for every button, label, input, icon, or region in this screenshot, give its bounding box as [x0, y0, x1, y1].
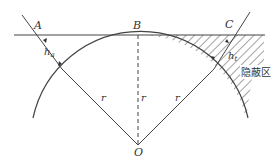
label-o: O: [134, 146, 143, 159]
label-b: B: [132, 19, 141, 32]
line-a: [22, 15, 62, 69]
label-r-left: r: [101, 92, 107, 103]
label-a: A: [33, 19, 42, 32]
label-h-a: ha: [44, 46, 55, 59]
label-hidden-zone: 隐蔽区: [241, 67, 271, 78]
label-r-right: r: [175, 92, 181, 103]
label-r-center: r: [141, 92, 147, 103]
radius-left: [62, 69, 138, 145]
radius-right: [138, 69, 214, 145]
curvature-diagram: A B C O ha ht r r r 隐蔽区: [0, 0, 278, 163]
label-c: C: [225, 18, 234, 31]
